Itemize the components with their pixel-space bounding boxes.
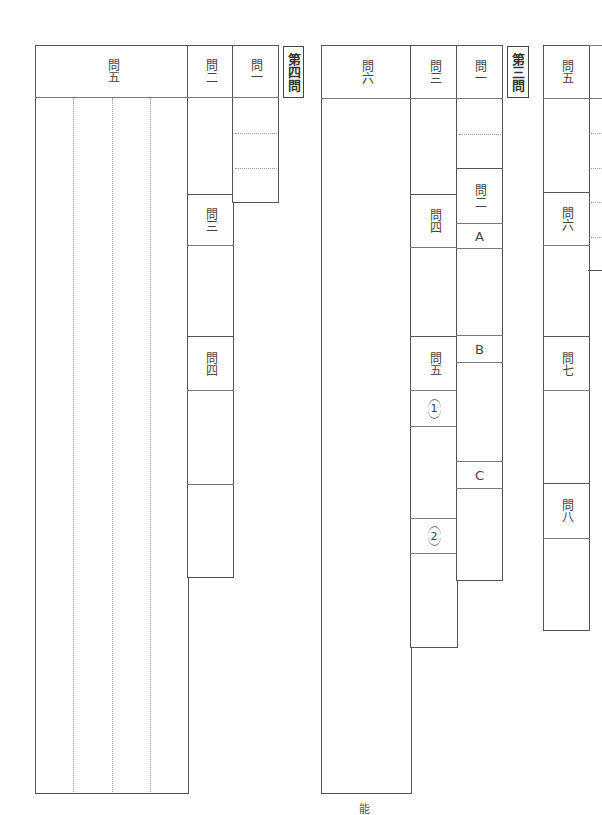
s4-q2-answer-cell[interactable] <box>188 98 233 194</box>
s4-q2-label: 問二 <box>187 45 234 97</box>
s2-next-column-dotted-3 <box>591 202 602 203</box>
s2-q8-answer-cell[interactable] <box>544 539 589 629</box>
section-4-tag: 第四問 <box>283 46 304 98</box>
s2-q6-answer-cell[interactable] <box>544 246 589 336</box>
s4-q3-answer-cell[interactable] <box>188 246 233 336</box>
s3-q1-answer-cell[interactable] <box>457 99 502 167</box>
s3-q1-dotted-guide <box>459 134 501 135</box>
s4-q1-dotted-guide-1 <box>235 133 277 134</box>
s3-q5-sub1-label: 1 <box>410 391 458 426</box>
page-mark: 能 <box>359 800 370 815</box>
s4-q4-answer-cell-1[interactable] <box>188 391 233 483</box>
s3-q5-sub2-number: 2 <box>428 526 441 546</box>
s4-q4-label: 問四 <box>187 337 234 390</box>
s3-q4-label: 問四 <box>410 195 458 247</box>
s2-next-column-dotted-2 <box>591 168 602 169</box>
s3-q6-header-divider <box>321 98 412 99</box>
s4-q4-answer-cell-2[interactable] <box>188 485 233 576</box>
s4-q5-column-guide-3 <box>150 98 151 792</box>
s3-q2-label: 問二 <box>456 169 503 223</box>
s4-q3-label: 問三 <box>187 195 234 245</box>
s2-q6-label: 問六 <box>543 193 590 245</box>
s4-q1-label: 問一 <box>232 45 279 97</box>
s3-q4-answer-cell[interactable] <box>411 248 457 336</box>
s4-q1-dotted-guide-2 <box>235 168 277 169</box>
s2-q8-label: 問八 <box>543 484 590 538</box>
s3-q1-label: 問一 <box>456 45 503 98</box>
s2-next-column-top-border <box>588 45 602 46</box>
s2-next-column-dotted-1 <box>591 133 602 134</box>
s4-q1-answer-cell[interactable] <box>233 98 278 201</box>
s3-q2-part-b-label: B <box>456 336 503 362</box>
s3-q3-label: 問三 <box>410 45 458 98</box>
s3-q5-sub2-answer-cell[interactable] <box>411 554 457 646</box>
s2-next-column-dotted-4 <box>591 237 602 238</box>
s3-q5-sub1-answer-cell[interactable] <box>411 427 457 517</box>
s2-next-column-bottom-tick <box>588 270 602 271</box>
s3-q5-label: 問五 <box>410 337 458 390</box>
s3-q2-part-c-label: C <box>456 462 503 488</box>
s4-q5-label: 問五 <box>35 45 189 97</box>
s3-q5-sub2-label: 2 <box>410 519 458 553</box>
s3-q6-answer-box[interactable] <box>321 45 412 794</box>
s3-q2-part-b-answer-cell[interactable] <box>457 363 502 460</box>
s4-q5-column-guide-1 <box>73 98 74 792</box>
s3-q2-part-a-label: A <box>456 224 503 248</box>
s3-q6-label: 問六 <box>321 45 412 98</box>
s4-q5-column-guide-2 <box>112 98 113 792</box>
s2-q7-answer-cell[interactable] <box>544 391 589 482</box>
section-3-tag: 第三問 <box>507 46 529 98</box>
s3-q3-answer-cell[interactable] <box>411 99 457 194</box>
s2-q7-label: 問七 <box>543 337 590 390</box>
s3-q2-part-c-answer-cell[interactable] <box>457 489 502 579</box>
s2-q5-label: 問五 <box>543 45 590 98</box>
s3-q5-sub1-number: 1 <box>428 399 441 419</box>
s3-q2-part-a-answer-cell[interactable] <box>457 249 502 335</box>
s2-q5-answer-cell[interactable] <box>544 99 589 192</box>
s2-next-column-header-divider <box>588 98 602 99</box>
